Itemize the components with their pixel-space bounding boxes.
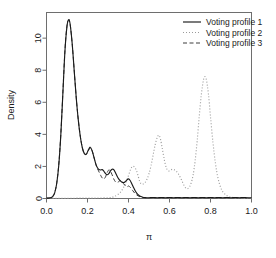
y-tick-label: 6 [34,100,44,105]
y-tick-label: 10 [34,33,44,43]
y-tick-label: 2 [34,164,44,169]
x-tick-label: 0.8 [204,206,217,216]
chart-figure: 0246810 0.00.20.40.60.81.0 Density π Vot… [0,0,276,258]
legend-label-1: Voting profile 1 [206,17,263,27]
y-tick-label: 0 [34,196,44,201]
x-tick-label: 0.4 [122,206,135,216]
x-tick-label: 1.0 [245,206,258,216]
x-axis-title: π [146,232,152,242]
x-tick-label: 0.0 [40,206,53,216]
density-plot: 0246810 0.00.20.40.60.81.0 Density π Vot… [0,0,276,258]
y-tick-label: 4 [34,132,44,137]
x-tick-label: 0.6 [163,206,176,216]
y-tick-label: 8 [34,68,44,73]
y-axis-title: Density [6,89,16,120]
legend-label-2: Voting profile 2 [206,28,263,38]
legend-label-3: Voting profile 3 [206,38,263,48]
x-tick-label: 0.2 [81,206,94,216]
